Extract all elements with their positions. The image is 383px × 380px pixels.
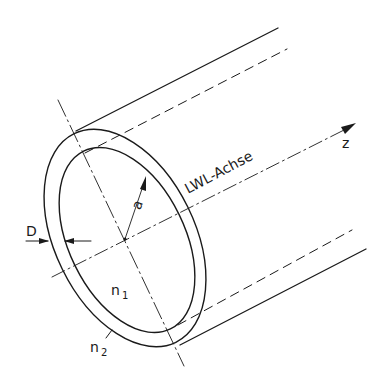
cladding-index-label: n2 <box>90 339 107 358</box>
axis-label: LWL-Achse <box>182 148 255 197</box>
core-index-sub: 1 <box>122 290 128 301</box>
center-point <box>123 237 126 240</box>
core-bottom-edge-hidden <box>178 230 352 325</box>
fiber-diagram: LWL-Achse z a D n1 n2 <box>0 0 383 380</box>
cross-section-axis-line <box>58 100 184 366</box>
n2-leader <box>106 330 112 338</box>
radius-arrow-icon <box>140 176 146 191</box>
cladding-thickness-label: D <box>26 223 37 239</box>
core-ellipse <box>31 126 222 355</box>
d-arrow-left-icon <box>39 238 49 244</box>
cylinder-top-edge <box>76 28 278 131</box>
core-top-edge-hidden <box>85 49 287 153</box>
cladding-index-sub: 2 <box>101 347 107 358</box>
z-arrow-icon <box>341 123 356 134</box>
core-radius-label: a <box>128 198 146 212</box>
fiber-axis-line <box>52 127 350 277</box>
z-axis-label: z <box>342 135 349 151</box>
cylinder-bottom-edge <box>180 249 366 345</box>
core-index-n: n <box>111 282 120 298</box>
core-index-label: n1 <box>111 282 128 301</box>
cladding-index-n: n <box>90 339 99 355</box>
